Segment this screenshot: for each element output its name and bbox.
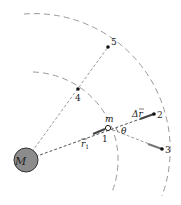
mass-M-label: M [14, 155, 27, 168]
outer-orbit-arc [24, 14, 170, 196]
gravitational-field-diagram: M m 1 2 3 4 5 Δr θ r1 [0, 0, 181, 205]
point-4-label: 4 [75, 93, 81, 103]
particle-m-marker [105, 125, 110, 130]
point-3-marker [160, 147, 164, 151]
r1-vector-label: r1 [81, 139, 89, 150]
point-4-marker [76, 87, 80, 91]
point-1-label: 1 [102, 134, 108, 144]
theta-label: θ [121, 126, 127, 136]
particle-m-label: m [105, 114, 114, 124]
point-3-label: 3 [165, 145, 171, 155]
point-5-marker [106, 45, 110, 49]
point-5-label: 5 [111, 37, 117, 47]
inner-orbit-arc [33, 72, 118, 192]
delta-r-label: Δr [131, 109, 143, 119]
point-2-marker [152, 112, 156, 116]
right-angle-tick [116, 128, 118, 132]
radial-line-to-2 [26, 114, 154, 160]
displacement-1-3-arrow [148, 144, 162, 149]
point-2-label: 2 [157, 110, 163, 120]
radial-line-to-5 [26, 47, 108, 160]
